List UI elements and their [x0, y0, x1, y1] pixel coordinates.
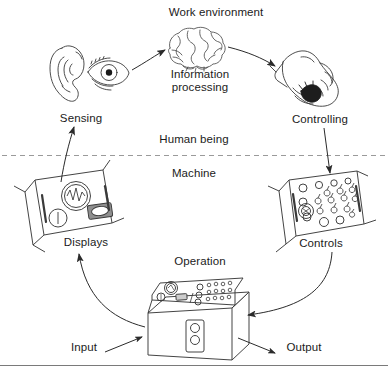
- label-controlling: Controlling: [292, 113, 348, 126]
- label-machine: Machine: [172, 167, 216, 180]
- label-information-processing-line1: Information: [171, 68, 230, 80]
- label-output: Output: [286, 341, 321, 354]
- arrow-operation-to-output: [238, 338, 275, 353]
- label-work-environment: Work environment: [169, 6, 264, 19]
- ear-icon: [50, 46, 84, 101]
- hand-icon: [270, 51, 338, 106]
- label-human-being: Human being: [159, 133, 229, 146]
- diagram-canvas: [0, 0, 388, 373]
- machine-console-icon: [148, 278, 249, 360]
- arrow-input-to-operation: [105, 337, 142, 352]
- arrow-operation-to-displays: [79, 254, 145, 327]
- label-operation: Operation: [174, 255, 225, 268]
- label-information-processing: Information processing: [155, 68, 245, 94]
- arrow-sensing-to-processing: [132, 50, 165, 70]
- arrow-controls-to-operation: [248, 252, 332, 315]
- arrow-controlling-to-controls: [324, 128, 330, 173]
- label-sensing: Sensing: [60, 112, 102, 125]
- brain-icon: [169, 27, 226, 72]
- label-displays: Displays: [64, 236, 108, 249]
- label-controls: Controls: [299, 237, 343, 250]
- arrow-processing-to-controlling: [228, 47, 275, 66]
- label-input: Input: [71, 341, 97, 354]
- human-machine-interaction-diagram: Work environment Information processing …: [0, 0, 388, 373]
- label-information-processing-line2: processing: [172, 81, 229, 93]
- arrow-displays-to-sensing: [61, 127, 74, 182]
- eye-icon: [88, 57, 129, 91]
